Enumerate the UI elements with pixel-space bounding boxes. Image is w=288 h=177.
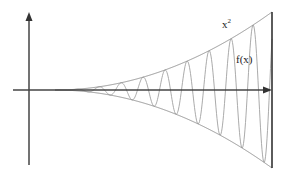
- plot-area: [0, 0, 288, 177]
- function-label: f(x): [236, 54, 253, 65]
- y-axis-arrow-icon: [26, 12, 33, 21]
- upper-envelope-label: x2: [222, 18, 231, 30]
- upper-envelope-curve: [55, 12, 272, 90]
- function-curve: [55, 25, 272, 162]
- x-axis-arrow-icon: [263, 87, 272, 94]
- label-superscript: 2: [228, 17, 232, 25]
